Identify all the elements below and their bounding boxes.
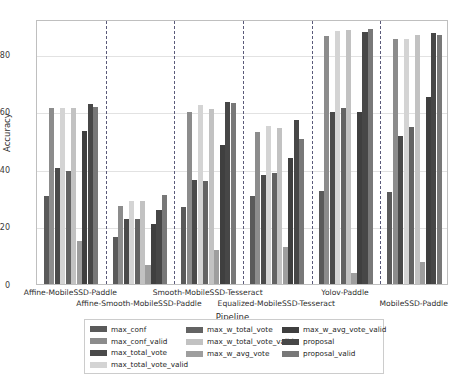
bar xyxy=(198,105,203,284)
bar xyxy=(118,206,123,284)
bar xyxy=(93,107,98,284)
legend-swatch xyxy=(90,326,107,332)
bar xyxy=(231,103,236,284)
bar xyxy=(82,131,87,284)
bar xyxy=(151,224,156,284)
bar xyxy=(324,36,329,284)
group-separator xyxy=(312,21,313,284)
bar xyxy=(346,30,351,284)
bar xyxy=(60,108,65,284)
bar xyxy=(431,33,436,284)
bar xyxy=(288,158,293,284)
y-tick-label: 40 xyxy=(0,165,10,174)
group-separator xyxy=(243,21,244,284)
legend-label: proposal_valid xyxy=(303,349,355,358)
gridline xyxy=(37,228,447,229)
legend-item[interactable]: max_total_vote_valid xyxy=(90,359,186,370)
bar xyxy=(404,39,409,284)
plot-area xyxy=(36,20,448,285)
bar xyxy=(335,31,340,284)
bar xyxy=(250,196,255,284)
legend-item[interactable]: max_w_total_vote_valid xyxy=(186,336,282,347)
bar xyxy=(192,180,197,284)
bar xyxy=(409,127,414,284)
bar xyxy=(225,102,230,284)
legend-label: proposal xyxy=(303,337,334,346)
legend-item[interactable]: max_w_avg_vote xyxy=(186,348,282,359)
legend-item[interactable]: proposal_valid xyxy=(282,348,378,359)
bar xyxy=(437,35,442,284)
legend-item[interactable]: max_conf xyxy=(90,324,186,335)
bar xyxy=(398,136,403,284)
y-tick-label: 60 xyxy=(0,108,10,117)
x-tick-label: MobileSSD-Paddle xyxy=(379,299,447,308)
legend-item[interactable]: max_w_total_vote xyxy=(186,324,282,335)
x-tick-label: Yolov-Paddle xyxy=(321,288,368,297)
bar xyxy=(187,112,192,284)
bar xyxy=(341,108,346,284)
legend-item[interactable]: max_w_avg_vote_valid xyxy=(282,324,378,335)
bar xyxy=(214,250,219,284)
legend: max_confmax_conf_validmax_total_votemax_… xyxy=(84,319,384,374)
bar xyxy=(140,201,145,284)
bar xyxy=(156,210,161,284)
legend-column: max_w_avg_vote_validproposalproposal_val… xyxy=(282,324,378,370)
gridline xyxy=(37,113,447,114)
bar xyxy=(129,201,134,284)
y-axis-label: Accuracy xyxy=(2,113,12,152)
gridline xyxy=(37,56,447,57)
y-tick-label: 20 xyxy=(0,223,10,232)
bar xyxy=(220,145,225,284)
bar xyxy=(209,109,214,284)
bar xyxy=(283,247,288,284)
legend-label: max_total_vote_valid xyxy=(111,360,188,369)
legend-swatch xyxy=(186,351,203,357)
legend-swatch xyxy=(186,339,203,345)
x-tick-label: Affine-MobileSSD-Paddle xyxy=(24,288,117,297)
legend-item[interactable]: proposal xyxy=(282,336,378,347)
bar xyxy=(319,191,324,284)
legend-swatch xyxy=(282,351,299,357)
bar xyxy=(357,112,362,284)
bar xyxy=(415,35,420,284)
bar xyxy=(420,262,425,284)
legend-item[interactable]: max_conf_valid xyxy=(90,336,186,347)
x-tick-label: Affine-Smooth-MobileSSD-Paddle xyxy=(76,299,201,308)
bar xyxy=(66,171,71,284)
bar xyxy=(368,29,373,284)
bar xyxy=(203,181,208,284)
legend-columns: max_confmax_conf_validmax_total_votemax_… xyxy=(90,324,378,370)
legend-column: max_confmax_conf_validmax_total_votemax_… xyxy=(90,324,186,370)
bar xyxy=(55,168,60,284)
bar xyxy=(88,104,93,284)
x-tick-label: Smooth-MobileSSD-Tesseract xyxy=(153,288,263,297)
legend-label: max_w_total_vote xyxy=(207,325,273,334)
bar xyxy=(393,39,398,284)
bar xyxy=(272,173,277,284)
bar xyxy=(71,108,76,284)
bar xyxy=(261,175,266,284)
bar xyxy=(255,132,260,284)
legend-swatch xyxy=(186,327,203,333)
bar xyxy=(351,273,356,284)
legend-item[interactable]: max_total_vote xyxy=(90,348,186,359)
bar xyxy=(277,128,282,284)
legend-label: max_total_vote xyxy=(111,348,167,357)
legend-swatch xyxy=(90,350,107,356)
bar xyxy=(77,241,82,284)
bar xyxy=(299,139,304,284)
matplotlib-figure: Accuracy 020406080 Affine-MobileSSD-Padd… xyxy=(0,0,465,384)
bar xyxy=(145,265,150,284)
bar xyxy=(49,108,54,284)
bar xyxy=(135,219,140,284)
bar xyxy=(387,192,392,284)
y-tick-label: 0 xyxy=(0,281,10,290)
legend-label: max_conf xyxy=(111,325,146,334)
y-tick-label: 80 xyxy=(0,50,10,59)
bar xyxy=(181,207,186,284)
bar xyxy=(44,196,49,284)
bar xyxy=(294,120,299,284)
legend-label: max_conf_valid xyxy=(111,337,167,346)
group-separator xyxy=(380,21,381,284)
group-separator xyxy=(174,21,175,284)
